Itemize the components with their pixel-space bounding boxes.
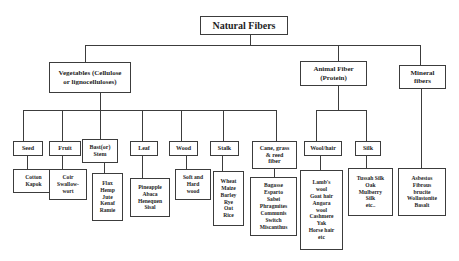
examples-wood: Soft and Hard wood [175, 169, 211, 200]
connector-line [223, 110, 224, 141]
subcategory-label: Stalk [218, 145, 231, 152]
connector-line [316, 110, 367, 111]
connector-line [142, 155, 143, 178]
subcategory-label: Leaf [138, 145, 150, 152]
category-label: Animal Fiber [313, 65, 353, 73]
example-item: Oak [365, 182, 375, 189]
example-item: Maize [221, 185, 236, 192]
subcategory-wood: Wood [169, 141, 198, 156]
example-item: Hemp [100, 187, 115, 194]
category-label: or lignocelluloses) [63, 78, 116, 86]
connector-line [320, 155, 321, 170]
connector-line [338, 85, 339, 110]
example-item: Cotton [25, 174, 41, 181]
subcategory-label: Fruit [58, 145, 71, 152]
example-item: Rice [223, 212, 234, 219]
connector-line [250, 34, 251, 45]
subcategory-stalk: Stalk [210, 141, 239, 156]
example-item: Yak [317, 220, 326, 227]
category-animal-fiber: Animal Fiber (Protein) [300, 61, 367, 86]
example-item: Wollastonite [407, 195, 437, 202]
examples-seed: Cotton Kapok [13, 169, 54, 193]
root-node-natural-fibers: Natural Fibers [200, 16, 288, 35]
example-item: Ramie [100, 207, 116, 214]
example-item: Sisal [144, 204, 155, 211]
example-item: Lamb's [312, 179, 330, 186]
example-item: Sabei [267, 196, 280, 203]
subcategory-label: Wood [176, 145, 191, 152]
example-item: wool [316, 186, 327, 193]
example-item: Abaca [142, 191, 157, 198]
connector-line [100, 92, 101, 110]
category-label: Vegetables (Cellulose [59, 69, 122, 77]
example-item: Kapok [25, 181, 41, 188]
connector-line [181, 110, 182, 141]
subcategory-cane-grass-reed: Cane, grass & reed fiber [252, 141, 297, 169]
example-item: Barley [221, 192, 237, 199]
connector-line [85, 45, 421, 46]
category-label: (Protein) [320, 74, 347, 82]
example-item: Oat [224, 205, 233, 212]
example-item: Tussah Silk [357, 175, 384, 182]
subcategory-label: Wool/hair [310, 145, 336, 152]
example-item: Goat hair [310, 193, 333, 200]
examples-mineral: Asbestos Fibrous brucite Wollastonite Ba… [398, 168, 446, 216]
example-item: Mulberry [359, 189, 382, 196]
subcategory-label: Cane, grass [260, 145, 290, 152]
example-item: Switch [265, 217, 281, 224]
connector-line [274, 168, 275, 177]
examples-silk: Tussah Silk Oak Mulberry Silk etc.. [348, 168, 393, 216]
example-item: Hard [187, 181, 200, 188]
example-item: Wheat [221, 178, 237, 185]
example-item: etc.. [366, 202, 376, 209]
connector-line [23, 110, 24, 141]
connector-line [338, 45, 339, 61]
subcategory-seed: Seed [13, 141, 43, 156]
example-item: Phragmites [260, 203, 287, 210]
examples-leaf: Pineapple Abaca Henequen Sisal [130, 178, 170, 217]
connector-line [27, 155, 28, 169]
example-item: Pineapple [138, 184, 162, 191]
example-item: Henequen [138, 198, 162, 205]
example-item: Flax [102, 180, 113, 187]
example-item: Bagasse [264, 182, 283, 189]
subcategory-label: Bast(or) [90, 144, 111, 151]
category-mineral-fibers: Mineral fibers [399, 65, 446, 89]
example-item: wool [316, 207, 327, 214]
example-item: Cashmere [309, 213, 333, 220]
example-item: Horse hair [309, 227, 335, 234]
category-vegetables: Vegetables (Cellulose or lignocelluloses… [49, 62, 131, 93]
subcategory-silk: Silk [355, 141, 381, 156]
example-item: Rye [224, 199, 233, 206]
connector-line [276, 110, 277, 141]
connector-line [142, 110, 143, 141]
connector-line [366, 155, 367, 168]
example-item: Kenaf [100, 200, 115, 207]
connector-line [316, 110, 317, 141]
example-item: Silk [366, 195, 375, 202]
category-label: fibers [414, 77, 431, 85]
example-item: Basalt [415, 202, 430, 209]
example-item: brucite [413, 189, 430, 196]
subcategory-wool-hair: Wool/hair [304, 141, 342, 156]
subcategory-label: Seed [22, 145, 34, 152]
subcategory-label: Silk [363, 145, 373, 152]
examples-stalk: Wheat Maize Barley Rye Oat Rice [213, 171, 244, 226]
example-item: Swallow- [57, 181, 79, 188]
example-item: Jute [102, 194, 112, 201]
connector-line [420, 45, 421, 65]
examples-cane-grass-reed: Bagasse Esparto Sabei Phragmites Communi… [250, 177, 297, 236]
example-item: Asbestos [412, 175, 433, 182]
subcategory-fruit: Fruit [49, 141, 81, 156]
example-item: wort [62, 188, 73, 195]
root-node-label: Natural Fibers [212, 20, 275, 32]
category-label: Mineral [410, 69, 434, 77]
connector-line [222, 155, 223, 171]
example-item: Miscanthus [260, 224, 288, 231]
connector-line [62, 110, 63, 141]
example-item: Coir [63, 174, 74, 181]
example-item: Esparto [264, 189, 283, 196]
connector-line [62, 155, 63, 169]
connector-line [85, 45, 86, 62]
example-item: Angora [312, 200, 330, 207]
